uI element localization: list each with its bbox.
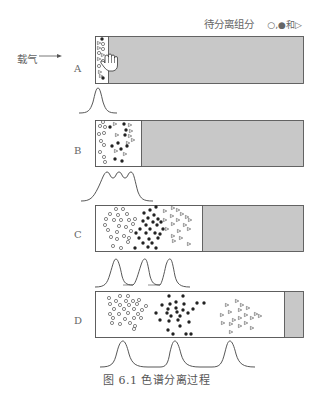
column-b [96,120,304,166]
peak-a [79,88,117,113]
arrow-icon [39,54,62,58]
peaks-c [95,259,190,287]
column-d [96,292,304,338]
chromatography-diagram [0,0,325,407]
peaks-d [100,341,255,367]
column-c [96,205,304,251]
column-a [96,37,304,84]
figure-caption: 图 6.1 色谱分离过程 [103,371,211,387]
peak-b [81,172,153,201]
